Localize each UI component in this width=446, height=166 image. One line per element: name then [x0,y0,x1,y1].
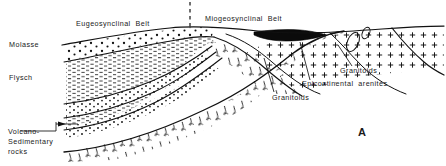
label-volcano-sedimentary-line2: Sedimentary [8,137,53,147]
label-granitoids-lower: Granitoids [272,93,309,103]
label-flysch: Flysch [9,73,32,83]
label-volcano-sedimentary-line3: rocks [8,147,27,157]
label-granitoids-upper: Granitoids [340,66,377,76]
panel-label: A [358,128,366,138]
label-miogeosynclinal-belt: Miogeosynclinal Belt [205,14,282,24]
label-epicontinental-arenites: Epicontinental arenites [302,79,388,89]
geological-cross-section-figure: Eugeosynclinal Belt Miogeosynclinal Belt… [0,0,446,166]
label-volcano-sedimentary-line1: Volcano- [8,127,40,137]
label-eugeosynclinal-belt: Eugeosynclinal Belt [76,19,150,29]
label-molasse: Molasse [9,40,39,50]
